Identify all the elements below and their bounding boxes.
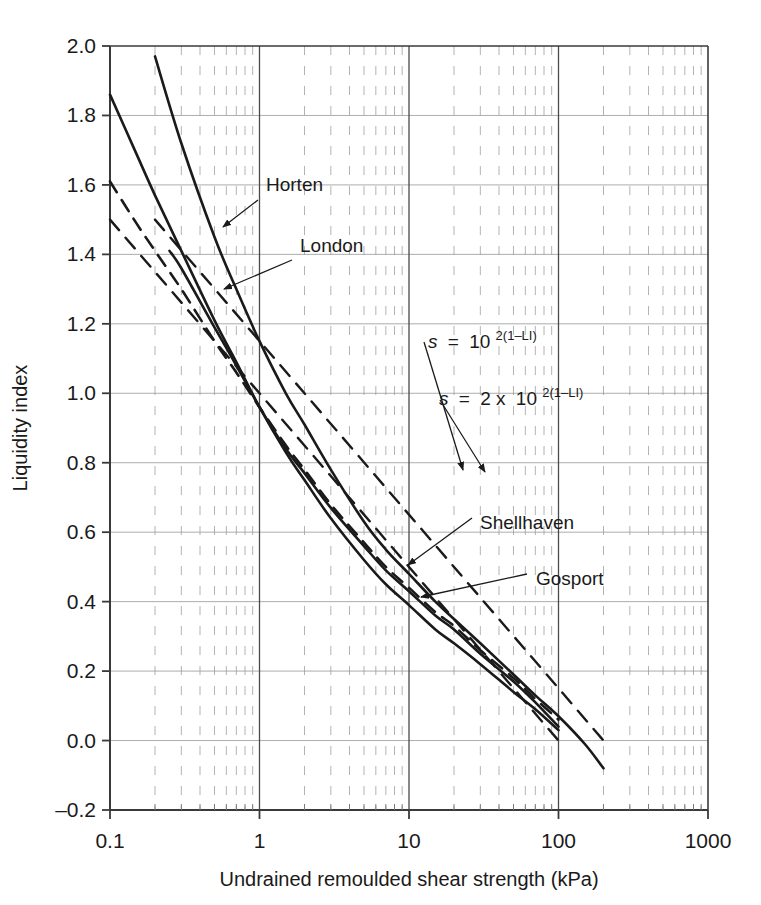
eq2-base: 10 [516,388,537,409]
eq1-base: 10 [469,331,490,352]
y-tick-label: 2.0 [67,34,96,57]
x-tick-label: 100 [541,829,576,852]
x-tick-label: 0.1 [95,829,124,852]
y-tick-label: 0.2 [67,659,96,682]
y-tick-label: 0.0 [67,729,96,752]
y-tick-label: 0.8 [67,451,96,474]
figure-background [0,0,761,905]
gosport-label: Gosport [536,568,604,589]
x-axis-title: Undrained remoulded shear strength (kPa) [219,868,598,890]
eq1-exponent: 2(1–LI) [496,328,537,343]
y-tick-label: 0.4 [67,590,97,613]
shellhaven-label: Shellhaven [480,512,574,533]
y-tick-label: 0.6 [67,520,96,543]
london-label: London [300,235,363,256]
horten-label: Horten [266,174,323,195]
y-tick-label: 1.0 [67,381,96,404]
eq1-lhs: s [428,331,438,352]
eq2-exponent: 2(1–LI) [542,385,583,400]
y-tick-label: 1.4 [67,242,97,265]
y-tick-label: 1.2 [67,312,96,335]
y-axis-title: Liquidity index [9,365,31,492]
y-tick-label: 1.8 [67,103,96,126]
x-tick-label: 1000 [685,829,732,852]
eq1-equals: = [448,331,459,352]
eq2-equals: = [459,388,470,409]
eq2-coeff: 2 x [480,388,506,409]
x-tick-label: 1 [254,829,266,852]
liquidity-index-log-chart: 2.01.81.61.41.21.00.80.60.40.20.0–0.2 0.… [0,0,761,905]
y-tick-label: –0.2 [55,798,96,821]
y-tick-label: 1.6 [67,173,96,196]
x-tick-label: 10 [397,829,420,852]
chart-figure: 2.01.81.61.41.21.00.80.60.40.20.0–0.2 0.… [0,0,761,905]
eq2-lhs: s [439,388,449,409]
